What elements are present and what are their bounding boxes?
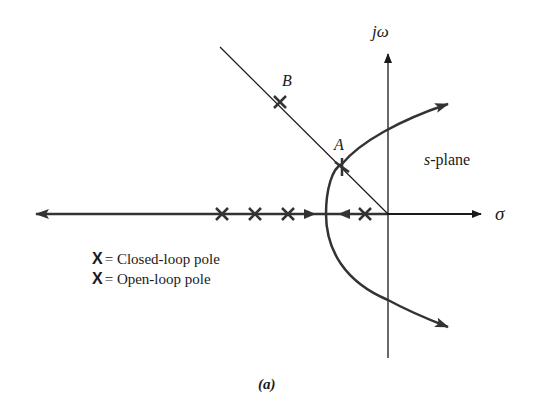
closed-loop-pole-legend-icon: X [92, 250, 103, 267]
breakaway-arrow-left [338, 209, 350, 219]
real-axis-label: σ [495, 203, 504, 225]
legend-closed-loop: X= Closed-loop pole [92, 250, 220, 268]
damping-ratio-line [220, 47, 388, 214]
legend-open-loop: X= Open-loop pole [92, 270, 211, 288]
figure-caption: (a) [258, 376, 276, 393]
point-b-label: B [282, 72, 292, 90]
root-locus-branch-lower [326, 214, 448, 327]
breakaway-arrow-right [304, 209, 316, 219]
s-plane-label: s-plane [424, 151, 470, 169]
imag-axis-label: jω [372, 22, 389, 42]
root-locus-diagram: jω σ B A s-plane X= Closed-loop pole X= … [0, 0, 535, 416]
point-a-label: A [334, 136, 344, 154]
s-plane-svg [0, 0, 535, 416]
open-loop-pole-legend-icon: X [92, 270, 103, 287]
